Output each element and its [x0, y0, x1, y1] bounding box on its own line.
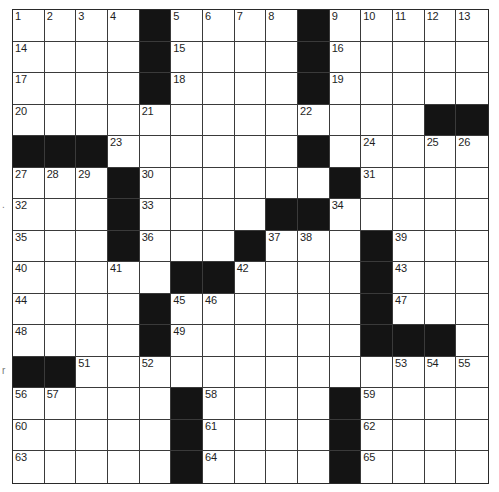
- grid-cell[interactable]: [235, 294, 267, 326]
- grid-cell[interactable]: [456, 325, 488, 357]
- grid-cell[interactable]: 19: [330, 73, 362, 105]
- grid-cell[interactable]: 2: [45, 10, 77, 42]
- grid-cell[interactable]: [76, 325, 108, 357]
- grid-cell[interactable]: [425, 388, 457, 420]
- grid-cell[interactable]: [203, 325, 235, 357]
- grid-cell[interactable]: [76, 42, 108, 74]
- grid-cell[interactable]: [235, 325, 267, 357]
- grid-cell[interactable]: 23: [108, 136, 140, 168]
- grid-cell[interactable]: [456, 262, 488, 294]
- grid-cell[interactable]: 15: [171, 42, 203, 74]
- grid-cell[interactable]: [425, 420, 457, 452]
- grid-cell[interactable]: [425, 451, 457, 483]
- grid-cell[interactable]: [298, 357, 330, 389]
- grid-cell[interactable]: 37: [266, 231, 298, 263]
- grid-cell[interactable]: [330, 294, 362, 326]
- grid-cell[interactable]: [108, 420, 140, 452]
- grid-cell[interactable]: [361, 199, 393, 231]
- grid-cell[interactable]: [45, 262, 77, 294]
- grid-cell[interactable]: [235, 136, 267, 168]
- grid-cell[interactable]: [298, 451, 330, 483]
- grid-cell[interactable]: [456, 73, 488, 105]
- grid-cell[interactable]: [76, 73, 108, 105]
- grid-cell[interactable]: [361, 42, 393, 74]
- grid-cell[interactable]: [266, 168, 298, 200]
- grid-cell[interactable]: 7: [235, 10, 267, 42]
- grid-cell[interactable]: [76, 388, 108, 420]
- grid-cell[interactable]: 32: [13, 199, 45, 231]
- grid-cell[interactable]: [108, 294, 140, 326]
- grid-cell[interactable]: [108, 105, 140, 137]
- grid-cell[interactable]: [266, 420, 298, 452]
- grid-cell[interactable]: [456, 231, 488, 263]
- grid-cell[interactable]: [235, 42, 267, 74]
- grid-cell[interactable]: 29: [76, 168, 108, 200]
- grid-cell[interactable]: [76, 231, 108, 263]
- grid-cell[interactable]: 59: [361, 388, 393, 420]
- grid-cell[interactable]: 35: [13, 231, 45, 263]
- grid-cell[interactable]: [235, 420, 267, 452]
- grid-cell[interactable]: 48: [13, 325, 45, 357]
- grid-cell[interactable]: [266, 73, 298, 105]
- grid-cell[interactable]: [330, 231, 362, 263]
- grid-cell[interactable]: 41: [108, 262, 140, 294]
- grid-cell[interactable]: 42: [235, 262, 267, 294]
- grid-cell[interactable]: [425, 294, 457, 326]
- grid-cell[interactable]: [203, 168, 235, 200]
- grid-cell[interactable]: 43: [393, 262, 425, 294]
- grid-cell[interactable]: [108, 388, 140, 420]
- grid-cell[interactable]: 52: [140, 357, 172, 389]
- grid-cell[interactable]: [76, 451, 108, 483]
- grid-cell[interactable]: 44: [13, 294, 45, 326]
- grid-cell[interactable]: 53: [393, 357, 425, 389]
- grid-cell[interactable]: 12: [425, 10, 457, 42]
- grid-cell[interactable]: [393, 105, 425, 137]
- grid-cell[interactable]: [45, 199, 77, 231]
- grid-cell[interactable]: [361, 105, 393, 137]
- grid-cell[interactable]: [171, 231, 203, 263]
- grid-cell[interactable]: [203, 199, 235, 231]
- grid-cell[interactable]: 5: [171, 10, 203, 42]
- grid-cell[interactable]: [266, 262, 298, 294]
- grid-cell[interactable]: [76, 262, 108, 294]
- grid-cell[interactable]: [203, 105, 235, 137]
- grid-cell[interactable]: [298, 388, 330, 420]
- grid-cell[interactable]: 31: [361, 168, 393, 200]
- grid-cell[interactable]: [266, 42, 298, 74]
- grid-cell[interactable]: [203, 42, 235, 74]
- grid-cell[interactable]: [266, 388, 298, 420]
- grid-cell[interactable]: [235, 105, 267, 137]
- grid-cell[interactable]: [235, 388, 267, 420]
- grid-cell[interactable]: 36: [140, 231, 172, 263]
- grid-cell[interactable]: [266, 451, 298, 483]
- grid-cell[interactable]: 26: [456, 136, 488, 168]
- grid-cell[interactable]: [235, 199, 267, 231]
- grid-cell[interactable]: [266, 294, 298, 326]
- grid-cell[interactable]: [140, 451, 172, 483]
- grid-cell[interactable]: [108, 451, 140, 483]
- grid-cell[interactable]: [171, 136, 203, 168]
- grid-cell[interactable]: 13: [456, 10, 488, 42]
- grid-cell[interactable]: 40: [13, 262, 45, 294]
- grid-cell[interactable]: [425, 231, 457, 263]
- grid-cell[interactable]: 60: [13, 420, 45, 452]
- grid-cell[interactable]: 30: [140, 168, 172, 200]
- grid-cell[interactable]: [456, 168, 488, 200]
- grid-cell[interactable]: [393, 73, 425, 105]
- grid-cell[interactable]: [108, 357, 140, 389]
- grid-cell[interactable]: [298, 262, 330, 294]
- grid-cell[interactable]: [456, 294, 488, 326]
- grid-cell[interactable]: 3: [76, 10, 108, 42]
- grid-cell[interactable]: [393, 199, 425, 231]
- grid-cell[interactable]: 34: [330, 199, 362, 231]
- grid-cell[interactable]: 18: [171, 73, 203, 105]
- grid-cell[interactable]: 9: [330, 10, 362, 42]
- grid-cell[interactable]: [235, 73, 267, 105]
- grid-cell[interactable]: [298, 420, 330, 452]
- grid-cell[interactable]: [425, 168, 457, 200]
- grid-cell[interactable]: [45, 231, 77, 263]
- grid-cell[interactable]: [361, 73, 393, 105]
- grid-cell[interactable]: 27: [13, 168, 45, 200]
- grid-cell[interactable]: [45, 294, 77, 326]
- grid-cell[interactable]: 55: [456, 357, 488, 389]
